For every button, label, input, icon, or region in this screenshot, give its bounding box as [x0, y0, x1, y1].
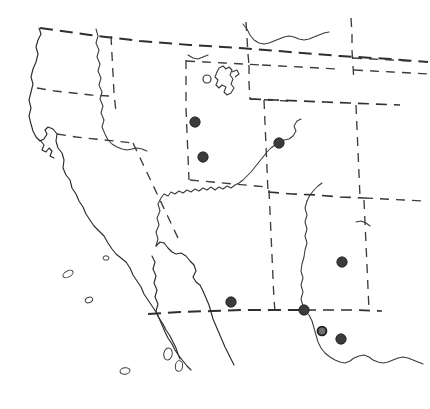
locality-dot-rio-grande-el-paso: [318, 327, 327, 336]
island-3: [163, 347, 174, 360]
wy-co-border: [250, 99, 400, 105]
us-canada-border: [40, 28, 428, 62]
id-ut-border: [186, 61, 262, 65]
ut-co-border: [264, 100, 268, 192]
map-canvas: [0, 0, 430, 409]
wy-mt-east: [351, 18, 354, 82]
island-4: [175, 360, 184, 372]
nv-ut-border: [186, 60, 189, 180]
locality-dot-northern-utah: [190, 117, 200, 127]
us-mexico-border-nm-line: [305, 310, 382, 311]
puget-sound-detail: [40, 140, 54, 158]
co-nm-border: [268, 192, 364, 198]
state-border-group: [37, 18, 428, 311]
locality-dot-west-texas: [336, 334, 346, 344]
island-1: [62, 269, 75, 279]
or-id-border: [111, 36, 116, 112]
ut-wy-step: [249, 65, 288, 101]
wy-north-border: [262, 65, 338, 69]
river-group: [96, 24, 423, 364]
or-ca-nv-border: [57, 134, 133, 143]
island-5: [120, 367, 131, 375]
idaho-river: [96, 29, 147, 151]
great-salt-lake-outline: [215, 66, 234, 95]
northern-utah-fragment: [188, 55, 208, 59]
gulf-islands-group: [62, 256, 184, 375]
id-wy-border: [246, 22, 249, 65]
distribution-map-figure: Outline map of the southwestern United S…: [0, 0, 430, 409]
co-east-border: [356, 105, 360, 197]
nm-tx-border: [364, 200, 369, 310]
northern-river-fragment: [243, 24, 329, 44]
locality-dot-western-colorado: [274, 138, 284, 148]
open-circle-great-salt-lake: [203, 75, 211, 83]
eastern-river-fragment: [356, 221, 370, 226]
ut-az-border: [190, 180, 268, 187]
locality-dot-central-utah: [198, 152, 208, 162]
great-salt-lake-group: [215, 66, 239, 95]
mainland-mexico-coast: [164, 243, 234, 365]
locality-dot-southwest-new-mexico: [299, 305, 309, 315]
lake-inlet-detail: [232, 70, 239, 77]
rio-grande: [301, 201, 423, 364]
nm-ok-step: [364, 198, 424, 201]
island-2: [85, 296, 94, 303]
locality-dot-southern-arizona: [226, 297, 236, 307]
az-nm-border: [269, 190, 275, 311]
ca-nv-diagonal: [133, 143, 178, 238]
island-6: [103, 256, 109, 260]
locality-dot-central-new-mexico: [337, 257, 347, 267]
wa-or-border: [37, 88, 109, 96]
rio-grande-headwaters: [307, 183, 322, 201]
wy-ne-line: [354, 70, 428, 74]
us-mexico-border-west: [148, 310, 305, 314]
locality-symbols-group: [190, 75, 347, 344]
